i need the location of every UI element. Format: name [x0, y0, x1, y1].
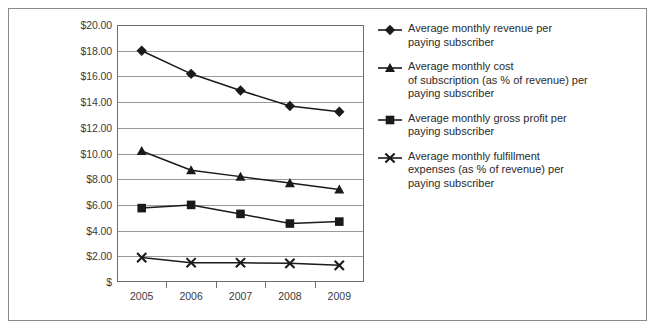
data-point-diamond — [235, 85, 245, 95]
legend-item-label: Average monthly fulfillmentexpenses (as … — [408, 150, 564, 191]
data-point-diamond — [186, 69, 196, 79]
legend-swatch — [377, 61, 403, 75]
y-axis-labels: $20.00$18.00$16.00$14.00$12.00$10.00$8.0… — [57, 25, 112, 282]
x-axis-ticks — [117, 282, 364, 289]
legend-swatch — [377, 23, 403, 37]
y-axis-tick-label: $2.00 — [86, 250, 112, 262]
legend-label-line: paying subscriber — [408, 177, 564, 191]
legend-item-label: Average monthly revenue perpaying subscr… — [408, 22, 552, 49]
series-line-1 — [142, 151, 340, 190]
x-axis-tick — [265, 282, 266, 288]
y-axis-tick-label: $18.00 — [80, 45, 112, 57]
legend-label-line: Average monthly cost — [408, 60, 588, 74]
data-point-triangle — [186, 165, 196, 174]
plot-area — [117, 25, 364, 282]
y-axis-tick-label: $8.00 — [86, 173, 112, 185]
data-point-square — [187, 201, 196, 210]
legend-marker-triangle-icon — [377, 61, 403, 75]
x-axis-tick — [216, 282, 217, 288]
y-axis-tick-label: $12.00 — [80, 122, 112, 134]
y-axis-tick-label: $10.00 — [80, 148, 112, 160]
y-axis-tick-label: $6.00 — [86, 199, 112, 211]
legend-item-2[interactable]: Average monthly gross profit perpaying s… — [377, 112, 635, 139]
data-point-square — [286, 219, 295, 228]
legend-label-line: Average monthly fulfillment — [408, 150, 564, 164]
y-axis-tick-label: $20.00 — [80, 19, 112, 31]
legend-label-line: Average monthly revenue per — [408, 22, 552, 36]
x-axis-tick-label: 2009 — [328, 290, 351, 302]
legend-marker-diamond-icon — [377, 23, 403, 37]
legend-swatch — [377, 151, 403, 165]
legend-label-line: paying subscriber — [408, 87, 588, 101]
y-axis-tick-label: $4.00 — [86, 225, 112, 237]
data-point-square — [335, 217, 344, 226]
legend-label-line: of subscription (as % of revenue) per — [408, 74, 588, 88]
x-axis-tick-label: 2005 — [130, 290, 153, 302]
x-axis-tick — [166, 282, 167, 288]
legend: Average monthly revenue perpaying subscr… — [377, 22, 635, 201]
legend-swatch — [377, 113, 403, 127]
legend-marker-square-icon — [377, 113, 403, 127]
x-axis-tick — [315, 282, 316, 288]
y-axis-tick-label: $16.00 — [80, 70, 112, 82]
legend-label-line: paying subscriber — [408, 125, 567, 139]
legend-marker-x-icon — [377, 151, 403, 165]
data-point-diamond — [137, 46, 147, 56]
x-axis-labels: 20052006200720082009 — [117, 290, 364, 306]
legend-label-line: expenses (as % of revenue) per — [408, 163, 564, 177]
data-point-square — [137, 204, 146, 213]
y-axis-tick-label: $ — [106, 276, 112, 288]
data-point-diamond — [334, 107, 344, 117]
x-axis-tick-label: 2008 — [278, 290, 301, 302]
series-layer — [117, 25, 364, 282]
data-point-square — [386, 115, 395, 124]
x-axis-tick-label: 2007 — [229, 290, 252, 302]
data-point-diamond — [385, 25, 395, 35]
legend-label-line: paying subscriber — [408, 36, 552, 50]
legend-item-label: Average monthly costof subscription (as … — [408, 60, 588, 101]
chart-screenshot: $20.00$18.00$16.00$14.00$12.00$10.00$8.0… — [0, 0, 656, 331]
x-axis-tick-label: 2006 — [179, 290, 202, 302]
series-line-0 — [142, 51, 340, 112]
data-point-triangle — [137, 146, 147, 155]
data-point-diamond — [285, 101, 295, 111]
legend-item-1[interactable]: Average monthly costof subscription (as … — [377, 60, 635, 101]
legend-label-line: Average monthly gross profit per — [408, 112, 567, 126]
data-point-square — [236, 210, 245, 219]
y-axis-tick-label: $14.00 — [80, 96, 112, 108]
legend-item-label: Average monthly gross profit perpaying s… — [408, 112, 567, 139]
legend-item-0[interactable]: Average monthly revenue perpaying subscr… — [377, 22, 635, 49]
legend-item-3[interactable]: Average monthly fulfillmentexpenses (as … — [377, 150, 635, 191]
